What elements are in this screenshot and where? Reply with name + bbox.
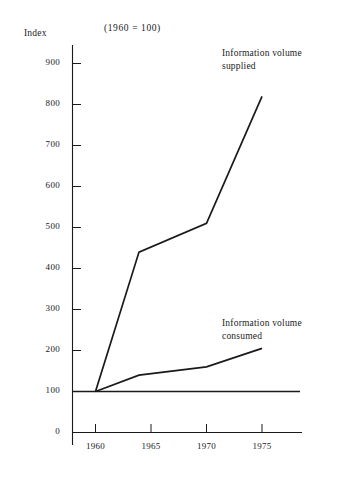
y-axis-title: Index <box>24 28 47 39</box>
y-tick-label-400: 400 <box>26 262 60 273</box>
x-tick-label-1975: 1975 <box>240 441 284 452</box>
series-annotation-consumed-line2: consumed <box>222 331 262 342</box>
series-line-information-volume-consumed <box>96 348 263 391</box>
x-tick-label-1970: 1970 <box>185 441 229 452</box>
y-tick-label-0: 0 <box>26 426 60 437</box>
y-tick-marks <box>73 64 82 433</box>
y-tick-label-100: 100 <box>26 385 60 396</box>
y-tick-label-800: 800 <box>26 98 60 109</box>
series-annotation-supplied-line2: supplied <box>222 61 256 72</box>
y-tick-label-700: 700 <box>26 139 60 150</box>
chart-container: Index (1960 = 100) 900 800 700 600 500 4… <box>0 0 348 482</box>
y-tick-label-900: 900 <box>26 57 60 68</box>
y-tick-label-200: 200 <box>26 344 60 355</box>
series-annotation-consumed-line1: Information volume <box>222 318 302 329</box>
chart-plot-area <box>0 0 348 482</box>
y-tick-label-300: 300 <box>26 303 60 314</box>
series-line-information-volume-supplied <box>96 96 263 391</box>
x-tick-label-1965: 1965 <box>129 441 173 452</box>
x-tick-marks <box>96 424 263 433</box>
series-annotation-supplied-line1: Information volume <box>222 48 302 59</box>
chart-subtitle: (1960 = 100) <box>104 23 161 34</box>
y-tick-label-500: 500 <box>26 221 60 232</box>
y-tick-label-600: 600 <box>26 180 60 191</box>
x-tick-label-1960: 1960 <box>74 441 118 452</box>
